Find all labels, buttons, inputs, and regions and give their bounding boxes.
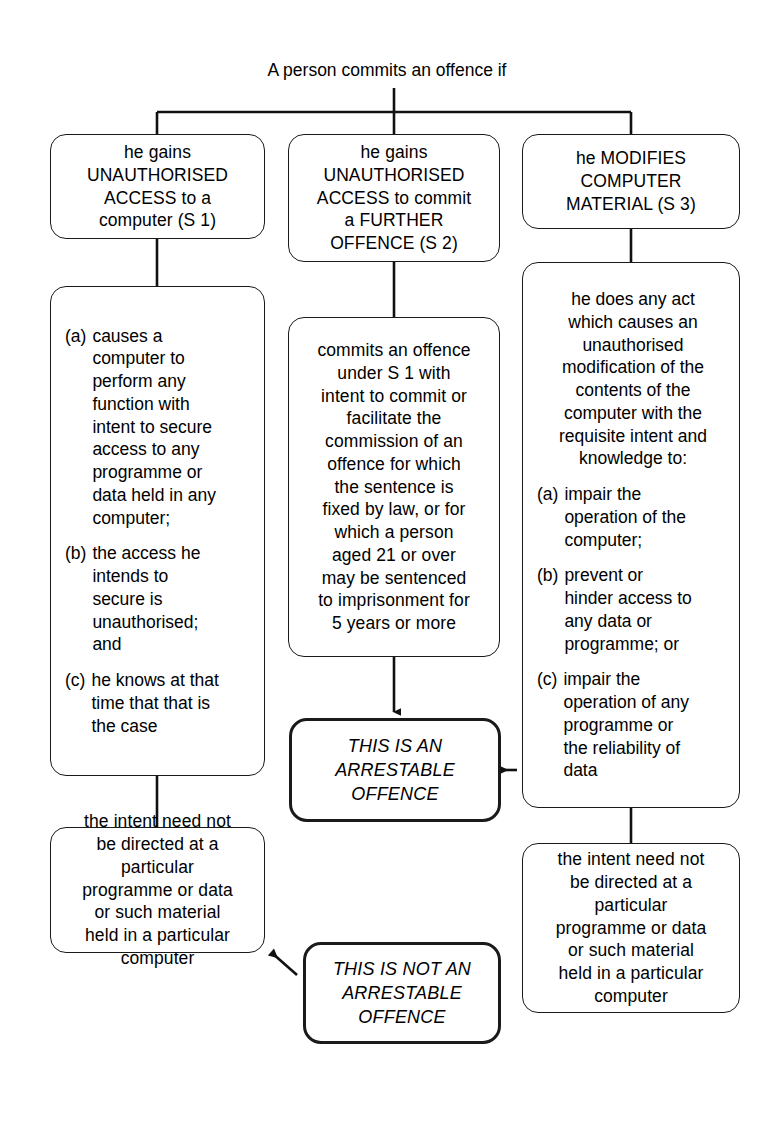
- node-arrestable-offence[interactable]: THIS IS AN ARRESTABLE OFFENCE: [289, 718, 501, 822]
- list-item: (b) the access he intends to secure is u…: [65, 542, 254, 656]
- node-s1-intent-note-label: the intent need not be directed at a par…: [82, 810, 233, 969]
- node-s3-modifies-material[interactable]: he MODIFIES COMPUTER MATERIAL (S 3): [522, 134, 740, 229]
- node-s3-intent-note-label: the intent need not be directed at a par…: [556, 848, 707, 1007]
- list-item: (c) impair the operation of any programm…: [537, 668, 729, 782]
- diagram-title: A person commits an offence if: [0, 60, 774, 81]
- node-s3-detail[interactable]: he does any act which causes an unauthor…: [522, 262, 740, 808]
- node-s2-label: he gains UNAUTHORISED ACCESS to commit a…: [317, 141, 471, 255]
- list-body: he knows at that time that that is the c…: [91, 669, 254, 737]
- flowchart-canvas: A person commits an offence if he gains …: [0, 0, 774, 1124]
- list-item: (b) prevent or hinder access to any data…: [537, 564, 729, 655]
- list-body: impair the operation of the computer;: [564, 483, 729, 551]
- list-item: (a) impair the operation of the computer…: [537, 483, 729, 551]
- list-body: causes a computer to perform any functio…: [92, 325, 254, 530]
- list-body: the access he intends to secure is unaut…: [92, 542, 254, 656]
- node-s2-detail-label: commits an offence under S 1 with intent…: [317, 339, 470, 635]
- node-s1-unauthorised-access[interactable]: he gains UNAUTHORISED ACCESS to a comput…: [50, 134, 265, 239]
- node-not-arrestable-offence[interactable]: THIS IS NOT AN ARRESTABLE OFFENCE: [303, 942, 501, 1044]
- node-arrestable-label: THIS IS AN ARRESTABLE OFFENCE: [335, 734, 455, 806]
- node-s3-intent-note[interactable]: the intent need not be directed at a par…: [522, 843, 740, 1013]
- list-marker: (b): [537, 564, 564, 655]
- node-s1-label: he gains UNAUTHORISED ACCESS to a comput…: [87, 141, 228, 232]
- node-s1-detail[interactable]: (a) causes a computer to perform any fun…: [50, 286, 265, 776]
- node-not-arrestable-label: THIS IS NOT AN ARRESTABLE OFFENCE: [333, 957, 471, 1029]
- node-s1-intent-note[interactable]: the intent need not be directed at a par…: [50, 827, 265, 953]
- list-item: (c) he knows at that time that that is t…: [65, 669, 254, 737]
- list-marker: (c): [537, 668, 563, 782]
- s3-detail-list: he does any act which causes an unauthor…: [523, 288, 739, 782]
- list-item: (a) causes a computer to perform any fun…: [65, 325, 254, 530]
- node-s2-detail[interactable]: commits an offence under S 1 with intent…: [288, 317, 500, 657]
- node-s2-further-offence[interactable]: he gains UNAUTHORISED ACCESS to commit a…: [288, 134, 500, 262]
- s1-detail-list: (a) causes a computer to perform any fun…: [51, 325, 264, 738]
- arrow-not-arrestable-to-intent-note: [272, 953, 297, 975]
- list-marker: (a): [537, 483, 564, 551]
- list-body: prevent or hinder access to any data or …: [564, 564, 729, 655]
- list-body: impair the operation of any programme or…: [563, 668, 729, 782]
- node-s3-label: he MODIFIES COMPUTER MATERIAL (S 3): [566, 147, 696, 215]
- list-marker: (a): [65, 325, 92, 530]
- list-marker: (b): [65, 542, 92, 656]
- s3-detail-intro: he does any act which causes an unauthor…: [537, 288, 729, 470]
- trunk-connectors: [157, 88, 631, 134]
- list-marker: (c): [65, 669, 91, 737]
